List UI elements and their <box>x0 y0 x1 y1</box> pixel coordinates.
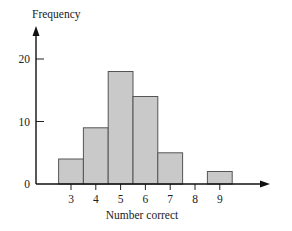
x-axis-arrow-icon <box>260 181 270 188</box>
x-tick-label: 4 <box>93 193 99 205</box>
y-axis-arrow-icon <box>33 26 40 36</box>
bar-3 <box>59 159 84 184</box>
y-tick-label: 10 <box>19 116 31 128</box>
bar-7 <box>158 153 183 184</box>
x-tick-label: 8 <box>192 193 198 205</box>
x-tick-label: 9 <box>217 193 223 205</box>
bar-9 <box>207 172 232 185</box>
x-tick-label: 6 <box>143 193 149 205</box>
y-axis-ticks: 01020 <box>19 53 45 190</box>
y-tick-label: 20 <box>19 53 31 65</box>
bar-4 <box>83 128 108 184</box>
x-tick-label: 5 <box>118 193 124 205</box>
x-axis-label: Number correct <box>106 209 179 221</box>
bar-6 <box>133 97 158 185</box>
x-tick-label: 7 <box>167 193 173 205</box>
x-axis-ticks: 3456789 <box>68 184 223 205</box>
histogram-chart: Frequency 01020 3456789 Number correct <box>0 0 292 231</box>
y-axis-label: Frequency <box>32 8 81 21</box>
y-tick-label: 0 <box>24 178 30 190</box>
bar-5 <box>108 72 133 185</box>
bars <box>59 72 233 185</box>
x-tick-label: 3 <box>68 193 74 205</box>
